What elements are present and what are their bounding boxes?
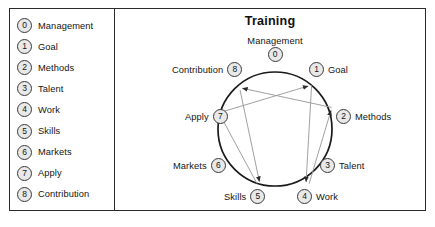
legend-item-2[interactable]: 2 Methods bbox=[17, 57, 114, 78]
enneagram-ring bbox=[218, 72, 332, 186]
legend-label-8: Contribution bbox=[38, 189, 89, 199]
legend-item-8[interactable]: 8 Contribution bbox=[17, 184, 114, 205]
enneagram-diagram: Training bbox=[115, 9, 425, 210]
node-8-label: Contribution bbox=[172, 65, 223, 75]
node-5-badge: 5 bbox=[250, 189, 265, 204]
node-3-talent[interactable]: 3 Talent bbox=[320, 158, 364, 173]
node-6-label: Markets bbox=[173, 161, 207, 171]
legend-label-4: Work bbox=[38, 105, 60, 115]
index-legend: 0 Management 1 Goal 2 Methods 3 Talent 4… bbox=[10, 9, 115, 210]
node-4-label: Work bbox=[316, 192, 338, 202]
legend-label-1: Goal bbox=[38, 42, 58, 52]
legend-badge-6: 6 bbox=[17, 145, 32, 160]
legend-badge-0: 0 bbox=[17, 18, 32, 33]
legend-label-6: Markets bbox=[38, 147, 72, 157]
legend-item-6[interactable]: 6 Markets bbox=[17, 142, 114, 163]
legend-label-2: Methods bbox=[38, 63, 74, 73]
legend-badge-8: 8 bbox=[17, 187, 32, 202]
node-3-label: Talent bbox=[339, 161, 364, 171]
node-1-goal[interactable]: 1 Goal bbox=[309, 62, 348, 77]
legend-badge-7: 7 bbox=[17, 166, 32, 181]
node-6-badge: 6 bbox=[211, 158, 226, 173]
legend-badge-2: 2 bbox=[17, 60, 32, 75]
node-0-label: Management bbox=[247, 36, 302, 46]
legend-badge-5: 5 bbox=[17, 124, 32, 139]
legend-label-7: Apply bbox=[38, 168, 62, 178]
node-4-badge: 4 bbox=[297, 189, 312, 204]
legend-label-5: Skills bbox=[38, 126, 60, 136]
legend-item-4[interactable]: 4 Work bbox=[17, 99, 114, 120]
legend-label-3: Talent bbox=[38, 84, 63, 94]
screenshot-root: 0 Management 1 Goal 2 Methods 3 Talent 4… bbox=[0, 0, 435, 227]
node-3-badge: 3 bbox=[320, 158, 335, 173]
node-5-label: Skills bbox=[224, 192, 246, 202]
legend-badge-3: 3 bbox=[17, 81, 32, 96]
legend-badge-1: 1 bbox=[17, 39, 32, 54]
node-1-label: Goal bbox=[328, 65, 348, 75]
legend-item-3[interactable]: 3 Talent bbox=[17, 78, 114, 99]
node-7-label: Apply bbox=[185, 112, 209, 122]
legend-item-5[interactable]: 5 Skills bbox=[17, 120, 114, 141]
legend-label-0: Management bbox=[38, 21, 93, 31]
legend-badge-4: 4 bbox=[17, 102, 32, 117]
node-2-methods[interactable]: 2 Methods bbox=[336, 109, 391, 124]
node-0-badge: 0 bbox=[268, 47, 283, 62]
legend-item-1[interactable]: 1 Goal bbox=[17, 36, 114, 57]
node-2-label: Methods bbox=[355, 112, 391, 122]
node-4-work[interactable]: 4 Work bbox=[297, 189, 338, 204]
node-2-badge: 2 bbox=[336, 109, 351, 124]
node-5-skills[interactable]: 5 Skills bbox=[224, 189, 265, 204]
edge-1-to-4 bbox=[306, 85, 312, 182]
node-7-badge: 7 bbox=[213, 109, 228, 124]
node-7-apply[interactable]: 7 Apply bbox=[185, 109, 228, 124]
node-8-contribution[interactable]: 8 Contribution bbox=[172, 62, 242, 77]
node-0-management[interactable]: Management 0 bbox=[228, 36, 322, 62]
node-6-markets[interactable]: 6 Markets bbox=[173, 158, 226, 173]
node-1-badge: 1 bbox=[309, 62, 324, 77]
legend-item-0[interactable]: 0 Management bbox=[17, 15, 114, 36]
node-8-badge: 8 bbox=[227, 62, 242, 77]
diagram-panel: 0 Management 1 Goal 2 Methods 3 Talent 4… bbox=[9, 8, 426, 211]
legend-item-7[interactable]: 7 Apply bbox=[17, 163, 114, 184]
